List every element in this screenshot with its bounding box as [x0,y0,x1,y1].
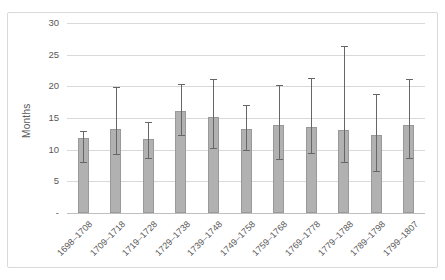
error-bar-cap-bottom [308,153,315,154]
y-axis-tick-label: 25 [29,49,59,61]
error-bar-cap-bottom [145,158,152,159]
y-axis-tick-label: 10 [29,144,59,156]
error-bar [213,79,214,148]
error-bar-cap-top [308,78,315,79]
error-bar [83,131,84,162]
error-bar [246,105,247,150]
x-axis-tick-label: 1769–1778 [283,219,322,258]
error-bar-cap-top [178,84,185,85]
error-bar [181,84,182,135]
error-bar-cap-top [210,79,217,80]
gridline [67,86,425,87]
error-bar-cap-bottom [210,148,217,149]
error-bar [116,87,117,154]
y-axis-tick-label: 5 [29,175,59,187]
x-axis-line [67,213,425,214]
y-axis-tick-label: 20 [29,80,59,92]
error-bar-cap-bottom [276,159,283,160]
error-bar-cap-top [80,131,87,132]
error-bar-cap-top [145,122,152,123]
gridline [67,23,425,24]
y-axis-tick-label: 15 [29,112,59,124]
error-bar [311,78,312,153]
plot-area: -510152025301698–17081709–17181719–17281… [0,0,445,280]
error-bar-cap-bottom [341,162,348,163]
error-bar-cap-bottom [243,150,250,151]
error-bar-cap-bottom [113,154,120,155]
y-axis-tick-label: - [29,207,59,219]
error-bar [376,94,377,171]
error-bar-cap-top [243,105,250,106]
error-bar-cap-top [341,46,348,47]
error-bar-cap-bottom [373,171,380,172]
error-bar-cap-top [276,85,283,86]
error-bar-cap-top [113,87,120,88]
error-bar-cap-bottom [406,158,413,159]
error-bar-cap-bottom [178,135,185,136]
gridline [67,55,425,56]
error-bar-cap-bottom [80,162,87,163]
y-axis-tick-label: 30 [29,17,59,29]
error-bar-cap-top [373,94,380,95]
error-bar [148,122,149,157]
error-bar-cap-top [406,79,413,80]
bar-chart: Months -510152025301698–17081709–1718171… [0,0,445,280]
error-bar [344,46,345,161]
error-bar [279,85,280,159]
error-bar [409,79,410,158]
